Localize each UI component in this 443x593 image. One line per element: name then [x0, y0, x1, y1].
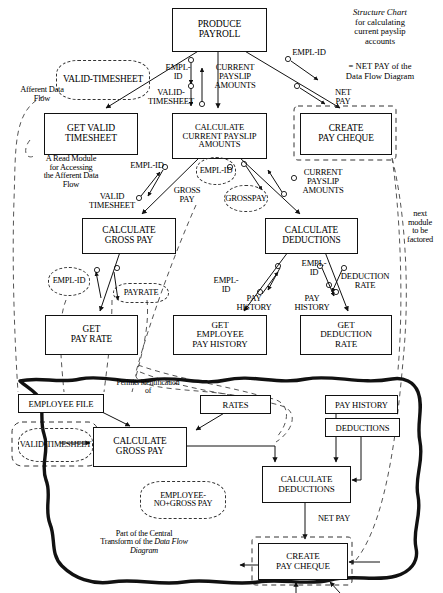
- flow-label-deduction-rate: DEDUCTION RATE: [332, 272, 398, 290]
- flow-label-empl-id-top: EMPL- ID: [160, 63, 196, 81]
- module-calc-deductions-dfd[interactable]: CALCULATEDEDUCTIONS: [262, 466, 351, 503]
- module-calc-gross-pay-sc[interactable]: CALCULATEGROSS PAY: [82, 218, 176, 254]
- module-get-pay-rate[interactable]: GETPAY RATE: [45, 315, 138, 355]
- ct-line-3: Diagram: [130, 546, 158, 555]
- module-label: CALCULATEDEDUCTIONS: [280, 226, 342, 245]
- flow-cloud-gross-pay-cloud: GROSSPAY: [224, 185, 268, 212]
- flow-label-read-module-note: A Read Module for Accessing the Afferent…: [22, 155, 120, 189]
- module-get-valid-timesheet[interactable]: GET VALIDTIMESHEET: [44, 113, 138, 155]
- module-label: CALCULATECURRENT PAYSLIPAMOUNTS: [181, 123, 259, 150]
- caption-block: Structure Chart for calculating current …: [320, 8, 440, 47]
- flow-cloud-label: EMPLOYEE-NO+GROSS PAY: [141, 492, 225, 509]
- data-store-pay-history[interactable]: PAY HISTORY: [325, 395, 398, 414]
- flow-label-net-pay-top: NET PAY: [326, 88, 360, 106]
- flow-label-next-module-note: next module to be factored: [398, 210, 442, 244]
- structure-chart-diagram: Structure Chart for calculating current …: [0, 0, 443, 593]
- flow-label-pay-history-b: PAY HISTORY: [286, 294, 338, 312]
- data-store-label: RATES: [223, 400, 249, 410]
- module-produce-payroll[interactable]: PRODUCEPAYROLL: [172, 8, 267, 52]
- caption-netpay: = NET PAY of the Data Flow Diagram: [320, 62, 440, 81]
- data-store-rates[interactable]: RATES: [200, 395, 271, 414]
- ct-line-2b: Data Flow: [154, 537, 187, 546]
- flow-cloud-label: VALID-TIMESHEET: [63, 75, 143, 84]
- data-store-label: PAY HISTORY: [335, 400, 388, 410]
- module-create-pay-cheque-sc[interactable]: CREATEPAY CHEQUE: [300, 113, 392, 155]
- data-store-deductions[interactable]: DEDUCTIONS: [325, 418, 400, 437]
- caption-lines: for calculating current payslip accounts: [354, 17, 405, 46]
- flow-cloud-empl-id-mid: EMPL-ID: [196, 157, 236, 185]
- module-label: CALCULATEDEDUCTIONS: [276, 475, 337, 494]
- flow-cloud-label: GROSSPAY: [225, 194, 267, 203]
- data-store-label: DEDUCTIONS: [336, 423, 390, 433]
- flow-cloud-label: VALID-TIMESHEET: [20, 441, 91, 449]
- flow-label-empl-id-right: EMPL-ID: [284, 48, 334, 57]
- module-label: CREATEPAY CHEQUE: [274, 552, 332, 571]
- flow-label-permits-identification: Permits identification of: [100, 379, 196, 395]
- flow-label-valid-timesheet-lbl: VALID- TIMESHEET: [136, 88, 206, 106]
- flow-label-current-payslip-amounts-mid: CURRENT PAYSLIP AMOUNTS: [292, 168, 354, 194]
- module-label: GETDEDUCTIONRATE: [318, 321, 374, 349]
- flow-cloud-employee-no-gross: EMPLOYEE-NO+GROSS PAY: [140, 481, 226, 519]
- module-label: CREATEPAY CHEQUE: [316, 124, 376, 143]
- flow-label-valid-timesheet-c: VALID TIMESHEET: [76, 192, 148, 210]
- module-label: GETPAY RATE: [69, 325, 114, 344]
- module-calc-deductions-sc[interactable]: CALCULATEDEDUCTIONS: [265, 218, 358, 254]
- flow-cloud-label: PAYRATE: [124, 289, 159, 297]
- central-transform-note: Part of the CentralTransform of the Data…: [74, 530, 214, 555]
- flow-cloud-empl-id-left: EMPL-ID: [48, 267, 90, 296]
- module-create-pay-cheque-dfd[interactable]: CREATEPAY CHEQUE: [258, 543, 348, 580]
- flow-label-empl-id-b: EMPL-ID: [122, 161, 172, 170]
- module-label: GET VALIDTIMESHEET: [63, 124, 119, 144]
- flow-cloud-label: EMPL-ID: [200, 167, 233, 175]
- flow-cloud-payrate-cloud: PAYRATE: [113, 283, 169, 303]
- data-store-label: EMPLOYEE FILE: [29, 399, 94, 409]
- module-get-employee-pay-history[interactable]: GETEMPLOYEEPAY HISTORY: [173, 315, 267, 355]
- module-get-deduction-rate[interactable]: GETDEDUCTIONRATE: [300, 315, 392, 355]
- module-calc-current-payslip[interactable]: CALCULATECURRENT PAYSLIPAMOUNTS: [172, 113, 267, 159]
- caption-title: Structure Chart: [353, 7, 407, 17]
- flow-label-current-payslip-amounts-top: CURRENT PAYSLIP AMOUNTS: [203, 63, 267, 89]
- flow-label-pay-history-a: PAY HISTORY: [228, 294, 280, 312]
- flow-label-afferent-data-flow: Afferent Data Flow: [2, 86, 82, 103]
- flow-cloud-label: EMPL-ID: [53, 277, 86, 285]
- module-label: PRODUCEPAYROLL: [196, 20, 244, 40]
- module-label: GETEMPLOYEEPAY HISTORY: [190, 321, 250, 349]
- flow-label-empl-id-c: EMPL- ID: [208, 276, 244, 294]
- module-label: CALCULATEGROSS PAY: [100, 226, 157, 245]
- flow-label-net-pay-dfd: NET PAY: [310, 515, 358, 524]
- data-store-employee-file[interactable]: EMPLOYEE FILE: [18, 394, 104, 413]
- module-label: CALCULATEGROSS PAY: [111, 437, 168, 456]
- flow-label-empl-id-d: EMPL- ID: [296, 259, 332, 277]
- flow-cloud-valid-timesheet-dfd: VALID-TIMESHEET: [18, 428, 93, 462]
- module-calc-gross-pay-dfd[interactable]: CALCULATEGROSS PAY: [93, 427, 187, 467]
- flow-label-gross-pay-lbl: GROSS PAY: [166, 186, 208, 204]
